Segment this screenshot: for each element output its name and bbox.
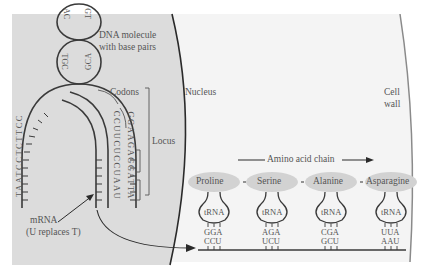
codon-2: UCU [262, 236, 280, 247]
codon-3: GCU [321, 236, 339, 247]
cell-wall-label-line1: Cell [384, 87, 400, 98]
codons-label: Codons [110, 87, 139, 98]
dna-loop-top-left-bases: AC [61, 8, 72, 19]
amino-acid-serine: Serine [257, 176, 281, 187]
dna-outer-strand-bases: TAATCCTCTTCC [14, 114, 25, 197]
codon-1: CCU [204, 236, 221, 247]
mrna-label-line2: (U replaces T) [26, 227, 81, 238]
amino-acid-proline: Proline [196, 176, 223, 187]
mrna-label-line1: mRNA [30, 215, 57, 226]
dna-molecule-label-line1: DNA molecule [99, 30, 156, 41]
trna-label-3: tRNA [321, 207, 341, 218]
dna-template-strand-bases: GGAAGAGGATTA [125, 111, 136, 199]
nucleus-label: Nucleus [185, 87, 216, 98]
trna-label-4: tRNA [381, 207, 401, 218]
dna-loop-mid-left-bases: TGC [59, 54, 70, 70]
amino-acid-alanine: Alanine [313, 176, 343, 187]
amino-acid-asparagine: Asparagine [366, 176, 409, 187]
trna-label-2: tRNA [262, 207, 282, 218]
dna-loop-top-right-bases: GT [82, 8, 93, 19]
codon-4: AAU [381, 236, 399, 247]
amino-acid-chain-label: Amino acid chain [267, 154, 335, 165]
dna-molecule-label-line2: with base pairs [99, 42, 156, 53]
mrna-strand-bases: CCUUCUCCUAAU [111, 111, 122, 200]
dna-loop-mid-right-bases: GCA [83, 53, 94, 70]
cell-wall-label-line2: wall [384, 99, 400, 110]
locus-label: Locus [152, 136, 175, 147]
cytoplasm-region [160, 14, 412, 262]
trna-label-1: tRNA [204, 207, 224, 218]
